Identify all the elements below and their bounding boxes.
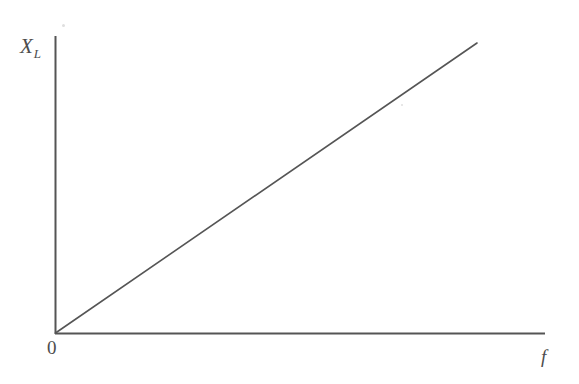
x-axis-label: f xyxy=(541,347,546,366)
reactance-line xyxy=(56,43,478,333)
y-axis-symbol: X xyxy=(20,34,33,58)
plot-canvas xyxy=(0,0,579,384)
y-axis-subscript: L xyxy=(34,46,41,61)
figure-container: XL 0 f xyxy=(0,0,579,384)
scan-speck xyxy=(62,24,65,27)
y-axis-label: XL xyxy=(20,36,40,57)
origin-tick-label: 0 xyxy=(47,338,57,357)
scan-speck xyxy=(401,104,403,106)
